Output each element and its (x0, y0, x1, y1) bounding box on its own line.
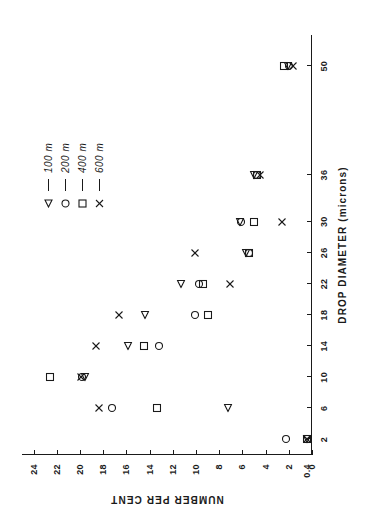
y-tick (57, 450, 58, 455)
legend-dash (82, 179, 83, 191)
legend-item: 600 m (91, 143, 108, 211)
legend-marker-circle-icon (61, 197, 70, 211)
legend-marker-triangle-left-icon (44, 197, 53, 211)
y-tick-label: 10 (191, 464, 201, 475)
x-tick-label: 50 (319, 61, 329, 72)
data-point-square (152, 404, 161, 413)
data-point-cross (225, 279, 234, 288)
y-tick (312, 450, 313, 455)
data-point-triangle-left (176, 279, 185, 288)
data-point-cross (92, 342, 101, 351)
y-tick-label: 14 (145, 464, 155, 475)
y-tick (219, 450, 220, 455)
x-tick-label: 22 (319, 278, 329, 289)
data-point-triangle-left (140, 311, 149, 320)
y-axis-title: NUMBER PER CENT (110, 494, 224, 505)
x-axis-title: DROP DIAMETER (microns) (337, 166, 348, 323)
x-tick-label: 36 (319, 170, 329, 181)
data-point-circle (282, 435, 291, 444)
data-point-cross (190, 248, 199, 257)
plot-area: 261014182226303650 00.424681012141618202… (22, 35, 312, 455)
y-tick (242, 450, 243, 455)
y-tick-label: 4 (261, 464, 271, 469)
data-point-cross (277, 217, 286, 226)
data-point-square (280, 62, 289, 71)
y-tick (126, 450, 127, 455)
y-tick (196, 450, 197, 455)
y-tick-label: 6 (237, 464, 247, 469)
data-point-circle (108, 404, 117, 413)
y-tick-label: 8 (214, 464, 224, 469)
x-axis-line (311, 35, 312, 455)
y-tick (173, 450, 174, 455)
x-tick (307, 174, 312, 175)
x-tick (307, 314, 312, 315)
y-tick-label: 22 (52, 464, 62, 475)
y-tick-label: 20 (75, 464, 85, 475)
y-tick (103, 450, 104, 455)
data-point-cross (289, 62, 298, 71)
x-tick (307, 65, 312, 66)
y-tick-label: 12 (168, 464, 178, 475)
data-point-cross (255, 171, 264, 180)
data-point-triangle-left (123, 342, 132, 351)
data-point-circle (190, 311, 199, 320)
y-tick (80, 450, 81, 455)
data-point-square (198, 279, 207, 288)
x-tick-label: 26 (319, 247, 329, 258)
data-point-square (250, 217, 259, 226)
data-point-cross (94, 404, 103, 413)
x-tick-label: 10 (319, 372, 329, 383)
data-point-cross (303, 435, 312, 444)
x-tick (307, 283, 312, 284)
data-point-square (203, 311, 212, 320)
legend-marker-square-icon (78, 197, 87, 211)
x-tick-label: 14 (319, 341, 329, 352)
data-point-circle (154, 342, 163, 351)
legend-dash (48, 179, 49, 191)
x-tick (307, 221, 312, 222)
y-tick-label: 2 (284, 464, 294, 469)
legend-marker-cross-icon (95, 197, 104, 211)
chart-legend: 100 m200 m400 m600 m (40, 143, 108, 211)
y-tick (266, 450, 267, 455)
y-tick-label: 16 (121, 464, 131, 475)
y-tick (150, 450, 151, 455)
legend-item: 400 m (74, 143, 91, 211)
x-tick-label: 2 (319, 437, 329, 442)
data-point-cross (115, 311, 124, 320)
data-point-cross (77, 373, 86, 382)
y-tick (34, 450, 35, 455)
x-tick (307, 407, 312, 408)
x-tick (307, 252, 312, 253)
y-tick-label: 18 (98, 464, 108, 475)
y-tick-label: 24 (29, 464, 39, 475)
legend-item: 200 m (57, 143, 74, 211)
data-point-square (139, 342, 148, 351)
data-point-square (245, 248, 254, 257)
x-tick (307, 376, 312, 377)
x-tick (307, 345, 312, 346)
chart-figure: 261014182226303650 00.424681012141618202… (0, 0, 367, 511)
rotated-figure-wrapper: 261014182226303650 00.424681012141618202… (0, 0, 367, 511)
y-tick-label: 0.4 (302, 464, 312, 478)
data-point-circle (237, 217, 246, 226)
legend-label: 200 m (60, 143, 71, 173)
x-tick-label: 18 (319, 310, 329, 321)
legend-label: 400 m (77, 143, 88, 173)
legend-label: 600 m (94, 143, 105, 173)
legend-item: 100 m (40, 143, 57, 211)
legend-dash (65, 179, 66, 191)
data-point-triangle-left (224, 404, 233, 413)
x-tick-label: 30 (319, 216, 329, 227)
y-axis-line (22, 454, 312, 455)
y-tick (289, 450, 290, 455)
data-point-square (45, 373, 54, 382)
x-tick-label: 6 (319, 406, 329, 411)
legend-dash (99, 179, 100, 191)
legend-label: 100 m (43, 143, 54, 173)
